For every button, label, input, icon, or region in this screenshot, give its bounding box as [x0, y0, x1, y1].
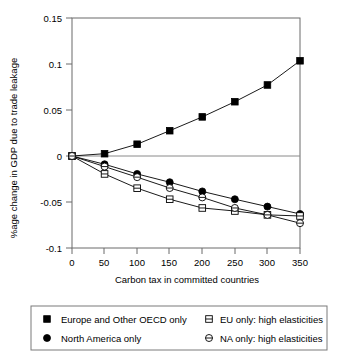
legend-item-label-1: North America only — [61, 333, 142, 344]
data-point-open-square-line — [199, 205, 206, 212]
x-axis-title: Carbon tax in committed countries — [115, 274, 259, 285]
legend-marker-open-square-line — [206, 316, 213, 323]
x-tick-label: 250 — [227, 257, 243, 268]
legend-item-label-0: Europe and Other OECD only — [61, 314, 187, 325]
data-point-open-circle-line — [69, 153, 76, 160]
data-point-open-square-line — [166, 196, 173, 203]
chart-figure: %age change in GDP due to trade leakage … — [0, 0, 354, 357]
data-point-open-square-line — [101, 171, 108, 178]
data-point-open-circle-line — [231, 204, 238, 211]
trade-leakage-line-chart: %age change in GDP due to trade leakage … — [0, 0, 354, 357]
data-point-open-circle-line — [134, 174, 141, 181]
data-point-open-circle-line — [297, 220, 304, 227]
data-point-filled-square — [297, 57, 304, 64]
data-point-filled-square — [232, 98, 239, 105]
x-tick-label: 100 — [129, 257, 145, 268]
legend-marker-open-circle-line — [206, 335, 213, 342]
data-point-open-circle-line — [101, 163, 108, 170]
data-point-filled-circle — [231, 196, 238, 203]
x-tick-label: 0 — [69, 257, 74, 268]
data-point-filled-square — [166, 127, 173, 134]
data-point-open-circle-line — [166, 185, 173, 192]
legend-marker-filled-square — [44, 316, 51, 323]
data-point-filled-square — [199, 114, 206, 121]
data-point-filled-square — [134, 141, 141, 148]
x-tick-label: 200 — [194, 257, 210, 268]
data-point-open-circle-line — [264, 211, 271, 218]
data-point-open-circle-line — [199, 194, 206, 201]
y-axis-title: %age change in GDP due to trade leakage — [8, 58, 19, 238]
data-point-open-square-line — [297, 213, 304, 220]
y-tick-label: -0.1 — [46, 243, 62, 254]
x-tick-label: 300 — [259, 257, 275, 268]
legend-item-label-3: NA only: high elasticities — [220, 333, 323, 344]
data-point-open-square-line — [134, 185, 141, 192]
data-point-filled-square — [264, 82, 271, 89]
chart-background — [0, 0, 354, 357]
x-tick-label: 150 — [161, 257, 177, 268]
y-tick-label: -0.05 — [40, 197, 62, 208]
y-tick-label: 0.1 — [49, 59, 62, 70]
legend-marker-filled-circle — [44, 335, 51, 342]
y-tick-label: 0.15 — [44, 13, 63, 24]
x-tick-label: 350 — [292, 257, 308, 268]
data-point-filled-circle — [264, 203, 271, 210]
data-point-filled-square — [101, 150, 108, 157]
x-tick-label: 50 — [99, 257, 110, 268]
legend-item-label-2: EU only: high elasticities — [220, 314, 323, 325]
y-tick-label: 0 — [57, 151, 62, 162]
y-tick-label: 0.05 — [44, 105, 63, 116]
